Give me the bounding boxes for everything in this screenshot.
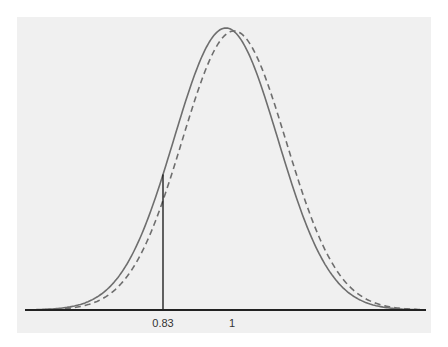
- x-tick-label: 0.83: [152, 317, 173, 329]
- dashed-distribution-curve: [25, 31, 426, 310]
- solid-distribution-curve: [25, 28, 426, 310]
- chart: 0.831: [0, 0, 448, 347]
- x-tick-label: 1: [229, 317, 235, 329]
